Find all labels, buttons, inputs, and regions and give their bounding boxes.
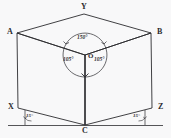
vertex-label-x: X [8,103,14,111]
cube-right-face [85,33,152,125]
vertex-label-c: C [82,127,88,135]
angle-arc-15-left [25,118,32,121]
vertex-label-z: Z [158,103,163,111]
cube-left-face [17,33,85,125]
vertex-label-o: O [88,53,93,60]
angle-arc-15-right [139,118,146,121]
angle-label-150-top: 150° [77,35,87,41]
angle-label-15-left: 15° [26,113,33,118]
vertex-label-b: B [157,28,162,36]
vertex-label-a: A [7,28,13,36]
vertex-label-y: Y [81,3,87,11]
arc-arrow-left-upper [64,42,70,45]
angle-label-15-right: 15° [133,113,140,118]
isometric-cube-figure: A Y B O X Z C 150° 105° 105° 15° 15° [0,0,171,138]
angle-label-105-right: 105° [94,57,104,63]
angle-label-105-left: 105° [63,57,73,63]
